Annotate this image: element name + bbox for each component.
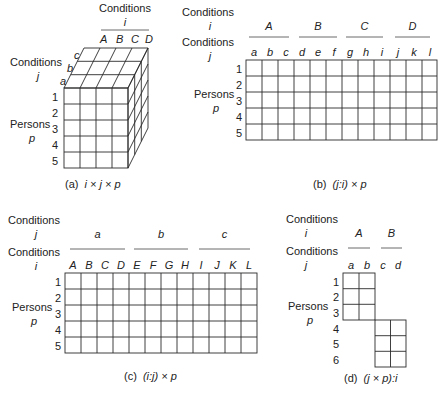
inner-level: A — [65, 259, 81, 271]
facet-label-j: Conditions — [10, 56, 62, 68]
facet-label-i: Conditions — [95, 2, 155, 14]
facet-symbol-p: p — [194, 102, 238, 114]
grid-b — [246, 60, 437, 140]
caption-b: (b) (j:i) × p — [313, 178, 367, 190]
inner-symbol: j — [182, 50, 238, 62]
outer-symbol: i — [182, 20, 238, 32]
row-1: 1 — [49, 276, 61, 288]
outer-label: Conditions — [286, 213, 338, 225]
level-b: b — [67, 62, 73, 74]
row-5: 5 — [230, 127, 242, 139]
caption-d: (d) (j × p):i — [344, 372, 398, 384]
inner-level: B — [81, 259, 97, 271]
inner-level: C — [97, 259, 113, 271]
inner-level: E — [129, 259, 145, 271]
inner-level: J — [209, 259, 225, 271]
inner-label: Conditions — [286, 245, 338, 257]
inner-level: h — [358, 46, 374, 58]
row-2: 2 — [327, 291, 339, 303]
row-5: 5 — [46, 155, 58, 167]
facet-label-persons: Persons — [10, 118, 50, 130]
facet-symbol-p: p — [12, 315, 56, 327]
row-1: 1 — [230, 63, 242, 75]
outer-level-A: A — [249, 20, 289, 32]
level-C: C — [131, 33, 139, 45]
cube-i-j-p — [64, 48, 148, 168]
outer-label: Conditions — [182, 6, 234, 18]
inner-level-c: c — [375, 259, 391, 271]
outer-label: Conditions — [8, 214, 60, 226]
inner-level: H — [177, 259, 193, 271]
inner-level: e — [310, 46, 326, 58]
inner-level: j — [390, 46, 406, 58]
inner-level: i — [374, 46, 390, 58]
inner-level: f — [326, 46, 342, 58]
level-c: c — [74, 49, 80, 61]
level-a: a — [60, 75, 66, 87]
caption-a: (a) i × j × p — [65, 178, 121, 190]
inner-level: G — [161, 259, 177, 271]
level-B: B — [116, 33, 123, 45]
inner-level: a — [246, 46, 262, 58]
level-D: D — [145, 33, 153, 45]
inner-label: Conditions — [182, 36, 234, 48]
grid-c — [65, 273, 257, 353]
outer-level-A: A — [348, 227, 370, 239]
inner-level: L — [241, 259, 257, 271]
outer-level-B: B — [381, 227, 402, 239]
facet-symbol-i: i — [95, 16, 155, 28]
facet-symbol-p: p — [288, 314, 332, 326]
row-6: 6 — [327, 354, 339, 366]
inner-label: Conditions — [8, 246, 60, 258]
inner-level: k — [406, 46, 422, 58]
outer-level-c: c — [199, 228, 250, 240]
inner-level-b: b — [359, 259, 375, 271]
inner-level: I — [193, 259, 209, 271]
inner-level: D — [113, 259, 129, 271]
outer-level-B: B — [299, 20, 337, 32]
facet-label-persons: Persons — [12, 301, 52, 313]
row-5: 5 — [327, 338, 339, 350]
outer-level-b: b — [134, 228, 188, 240]
outer-symbol: j — [8, 228, 64, 240]
inner-level-d: d — [390, 259, 406, 271]
outer-level-a: a — [70, 228, 125, 240]
level-A: A — [100, 33, 107, 45]
outer-level-D: D — [395, 20, 430, 32]
inner-level: b — [262, 46, 278, 58]
facet-symbol-p: p — [10, 132, 54, 144]
row-5: 5 — [49, 340, 61, 352]
row-1: 1 — [46, 91, 58, 103]
outer-level-C: C — [346, 20, 383, 32]
inner-level: K — [225, 259, 241, 271]
inner-symbol: j — [286, 259, 326, 271]
facet-label-persons: Persons — [288, 300, 328, 312]
inner-level: g — [342, 46, 358, 58]
inner-symbol: i — [8, 260, 64, 272]
facet-label-persons: Persons — [194, 88, 234, 100]
facet-symbol-j: j — [10, 70, 66, 82]
grid-d — [343, 273, 406, 367]
inner-level: d — [294, 46, 310, 58]
inner-level-a: a — [343, 259, 359, 271]
inner-level: l — [422, 46, 438, 58]
caption-c: (c) (i:j) × p — [124, 370, 177, 382]
inner-level: F — [145, 259, 161, 271]
outer-symbol: i — [286, 227, 326, 239]
row-1: 1 — [327, 276, 339, 288]
inner-level: c — [278, 46, 294, 58]
